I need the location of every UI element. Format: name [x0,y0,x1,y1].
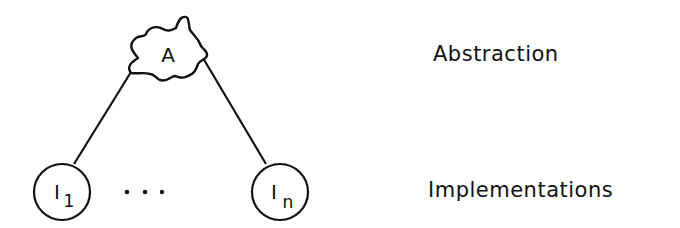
implementation-node-n-subscript: n [283,192,294,212]
ellipsis-dots [125,190,164,194]
implementation-node-n [252,164,308,220]
level-label-implementations: Implementations [428,178,613,202]
level-label-abstraction: Abstraction [433,42,559,66]
edge-abstraction-to-i1 [74,72,131,164]
implementation-node-1 [34,164,90,220]
edge-abstraction-to-in [203,58,266,164]
implementation-node-n-label: I [271,180,277,204]
abstraction-node-label: A [161,43,175,67]
implementation-node-1-label: I [54,180,60,204]
implementation-node-1-subscript: 1 [64,191,75,211]
